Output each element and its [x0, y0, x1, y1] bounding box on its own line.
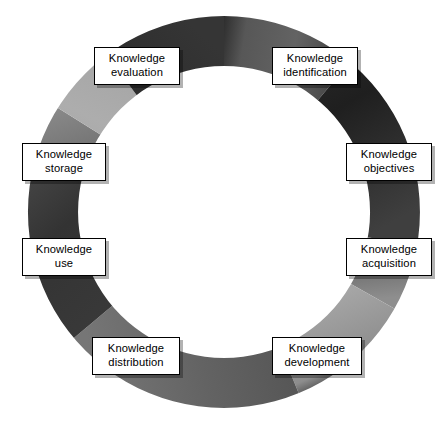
- node-label-line1: Knowledge: [96, 342, 176, 356]
- node-label-line1: Knowledge: [276, 342, 358, 356]
- node-knowledge-distribution[interactable]: Knowledge distribution: [92, 337, 180, 375]
- node-label-line1: Knowledge: [350, 243, 428, 257]
- node-label-line2: evaluation: [98, 66, 176, 80]
- node-label-line2: acquisition: [350, 257, 428, 271]
- node-knowledge-acquisition[interactable]: Knowledge acquisition: [346, 238, 432, 276]
- node-knowledge-storage[interactable]: Knowledge storage: [22, 143, 106, 181]
- node-label-line1: Knowledge: [26, 243, 102, 257]
- node-label-line2: development: [276, 356, 358, 370]
- knowledge-cycle-diagram: Knowledge identification Knowledge objec…: [0, 0, 448, 423]
- node-knowledge-evaluation[interactable]: Knowledge evaluation: [94, 47, 180, 85]
- node-label-line2: identification: [276, 66, 354, 80]
- node-label-line1: Knowledge: [276, 52, 354, 66]
- node-label-line1: Knowledge: [26, 148, 102, 162]
- cycle-ring: [0, 0, 448, 423]
- node-knowledge-objectives[interactable]: Knowledge objectives: [346, 143, 432, 181]
- node-label-line2: distribution: [96, 356, 176, 370]
- node-knowledge-use[interactable]: Knowledge use: [22, 238, 106, 276]
- node-label-line1: Knowledge: [350, 148, 428, 162]
- node-label-line2: use: [26, 257, 102, 271]
- node-label-line2: storage: [26, 162, 102, 176]
- node-knowledge-identification[interactable]: Knowledge identification: [272, 47, 358, 85]
- node-knowledge-development[interactable]: Knowledge development: [272, 337, 362, 375]
- ring-segments: [14, 5, 430, 412]
- node-label-line1: Knowledge: [98, 52, 176, 66]
- node-label-line2: objectives: [350, 162, 428, 176]
